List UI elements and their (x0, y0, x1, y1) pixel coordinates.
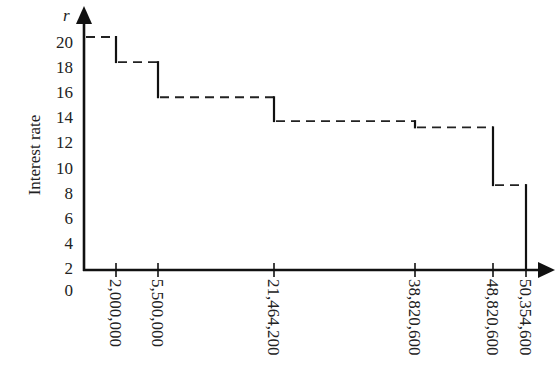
x-tick-label: 21,464,200 (264, 279, 283, 356)
step-chart: 02468101214161820 2,000,0005,500,00021,4… (0, 0, 555, 390)
step-series (86, 36, 526, 271)
x-axis-ticks: 2,000,0005,500,00021,464,20038,820,60048… (106, 263, 535, 356)
y-tick-label: 14 (56, 108, 74, 127)
x-tick-label: 48,820,600 (483, 279, 502, 356)
y-axis-ticks: 02468101214161820 (56, 33, 74, 300)
y-tick-label: 16 (56, 83, 73, 102)
y-tick-label: 8 (65, 184, 74, 203)
x-tick-label: 5,500,000 (148, 279, 167, 347)
x-tick-label: 2,000,000 (106, 279, 125, 347)
y-tick-label: 2 (65, 259, 74, 278)
axes (76, 6, 555, 278)
x-axis-arrow-icon (538, 262, 555, 278)
y-tick-label: 12 (56, 133, 73, 152)
y-tick-label: 18 (56, 58, 73, 77)
x-tick-label: 38,820,600 (405, 279, 424, 356)
y-tick-label: 4 (65, 234, 74, 253)
y-axis-title: Interest rate (25, 115, 44, 196)
y-axis-variable: r (63, 6, 70, 25)
y-tick-label: 6 (65, 209, 74, 228)
y-tick-label: 10 (56, 159, 73, 178)
y-axis-arrow-icon (76, 6, 92, 24)
y-tick-label: 20 (56, 33, 73, 52)
x-tick-label: 50,354,600 (516, 279, 535, 356)
y-tick-label: 0 (65, 281, 74, 300)
